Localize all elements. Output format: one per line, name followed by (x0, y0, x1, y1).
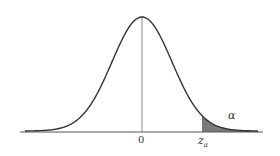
normal-curve-figure: 0 za α (0, 0, 280, 156)
alpha-label: α (228, 109, 235, 122)
tick-label-zero: 0 (138, 134, 144, 145)
alpha-subscript: a (204, 141, 208, 149)
normal-curve-svg (0, 0, 280, 156)
tick-label-z-alpha: za (198, 134, 208, 149)
